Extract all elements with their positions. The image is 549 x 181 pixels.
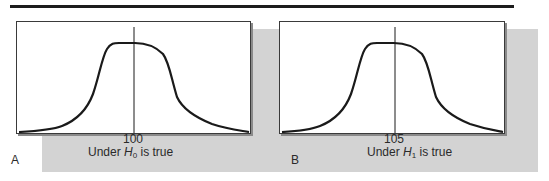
caption-b-suffix: is true (416, 145, 452, 159)
panel-letter-b: B (291, 153, 299, 167)
caption-b-prefix: Under (367, 145, 403, 159)
distribution-curve-b (280, 22, 504, 133)
plot-box-a (16, 21, 251, 134)
caption-a-prefix: Under (88, 145, 124, 159)
caption-a: Under H0 is true (88, 145, 173, 160)
x-tick-a: 100 (113, 132, 153, 146)
plot-box-b (279, 21, 505, 134)
caption-b-var: H (403, 145, 412, 159)
caption-a-suffix: is true (137, 145, 173, 159)
x-tick-b: 105 (374, 132, 414, 146)
caption-b: Under H1 is true (367, 145, 452, 160)
top-rule (10, 5, 514, 8)
caption-a-var: H (124, 145, 133, 159)
distribution-curve-a (17, 22, 250, 133)
panel-letter-a: A (11, 153, 19, 167)
